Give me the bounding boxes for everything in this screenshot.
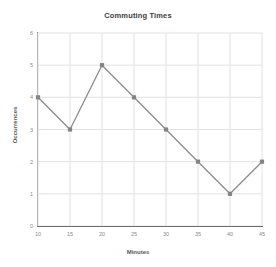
y-tick-label: 3	[3, 127, 33, 133]
data-point-marker	[36, 95, 40, 99]
x-tick-label: 30	[154, 231, 178, 237]
y-tick-label: 0	[3, 223, 33, 229]
y-tick-label: 5	[3, 62, 33, 68]
x-tick-label: 15	[58, 231, 82, 237]
x-axis-spine	[37, 226, 263, 227]
data-point-marker	[196, 160, 200, 164]
data-point-marker	[228, 192, 232, 196]
x-tick-label: 10	[26, 231, 50, 237]
y-axis-title: Occurrences	[12, 65, 18, 185]
x-tick-label: 25	[122, 231, 146, 237]
x-tick-label: 35	[186, 231, 210, 237]
x-tick-label: 20	[90, 231, 114, 237]
data-point-marker	[132, 95, 136, 99]
chart-title: Commuting Times	[0, 11, 276, 20]
plot-area	[38, 33, 262, 226]
y-tick-label: 4	[3, 94, 33, 100]
data-point-marker	[260, 160, 264, 164]
x-tick-label: 45	[250, 231, 274, 237]
data-point-marker	[68, 127, 72, 131]
x-axis-title: Minutes	[0, 249, 276, 255]
x-axis-tick-labels: 1015202530354045	[0, 231, 276, 241]
x-tick-label: 40	[218, 231, 242, 237]
y-tick-label: 6	[3, 30, 33, 36]
data-series-line	[38, 33, 262, 226]
data-point-marker	[100, 63, 104, 67]
chart-screenshot: Commuting Times 0123456 1015202530354045…	[0, 0, 276, 267]
y-tick-label: 2	[3, 159, 33, 165]
y-tick-label: 1	[3, 191, 33, 197]
data-point-marker	[164, 127, 168, 131]
